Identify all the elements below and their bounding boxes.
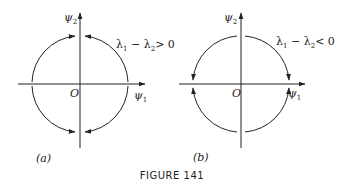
trajectory-arc-upper-left-a — [32, 36, 75, 82]
condition-label-b: λ1 − λ2< 0 — [276, 36, 335, 50]
panel-b-diagram — [179, 13, 305, 148]
trajectory-arc-lower-left-a — [32, 86, 75, 132]
origin-label-b: O — [232, 88, 241, 99]
condition-label-a: λ1 − λ2> 0 — [116, 39, 175, 53]
panel-label-a: (a) — [36, 152, 51, 165]
panel-a-diagram — [18, 13, 145, 148]
trajectory-arc-lower-right-b — [245, 88, 289, 132]
origin-label-a: O — [70, 88, 79, 99]
trajectory-arc-upper-left-b — [193, 36, 237, 80]
trajectory-arc-lower-right-a — [85, 86, 128, 132]
psi1-label-b: ψ1 — [288, 88, 301, 102]
psi2-label-b: ψ2 — [224, 12, 237, 26]
trajectory-arc-lower-left-b — [193, 88, 237, 132]
panel-label-b: (b) — [193, 151, 209, 164]
figure-caption: FIGURE 141 — [0, 170, 344, 181]
psi1-label-a: ψ1 — [134, 90, 147, 104]
psi2-label-a: ψ2 — [64, 12, 77, 26]
